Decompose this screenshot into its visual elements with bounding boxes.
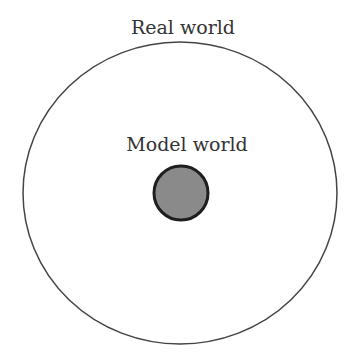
diagram-canvas <box>0 0 350 359</box>
real-world-label: Real world <box>131 16 235 38</box>
model-world-circle <box>154 166 208 220</box>
model-world-label: Model world <box>126 133 247 155</box>
